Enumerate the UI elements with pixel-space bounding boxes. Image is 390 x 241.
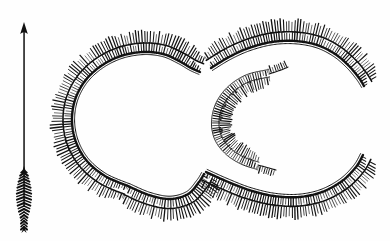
figure-root: N Plan of a double-ditched earthwork enc… <box>0 0 390 241</box>
earthwork-plan-svg <box>0 0 390 241</box>
